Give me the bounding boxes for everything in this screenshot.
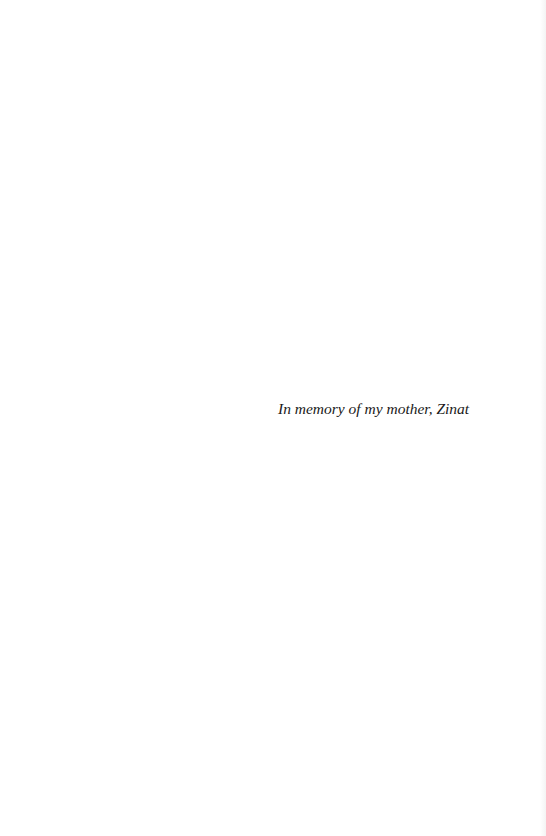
dedication-text: In memory of my mother, Zinat [278, 400, 469, 418]
book-page: In memory of my mother, Zinat [0, 0, 546, 836]
page-edge-shadow [540, 0, 546, 836]
